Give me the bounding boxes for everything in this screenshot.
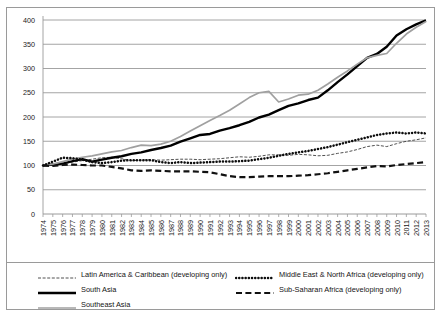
legend-item-label: Latin America & Caribbean (developing on… bbox=[81, 270, 227, 279]
x-axis-tick-label: 2009 bbox=[383, 220, 392, 236]
x-axis-tick-label: 1987 bbox=[167, 220, 176, 236]
legend-item[interactable]: Latin America & Caribbean (developing on… bbox=[37, 267, 227, 281]
x-axis-tick-label: 1980 bbox=[98, 220, 107, 236]
x-axis-tick-label: 2003 bbox=[324, 220, 333, 236]
x-axis-tick-label: 1983 bbox=[127, 220, 136, 236]
y-axis-tick-label: 0 bbox=[9, 210, 35, 219]
legend-swatch bbox=[37, 269, 77, 279]
y-axis-tick-label: 50 bbox=[9, 185, 35, 194]
x-axis-tick-label: 1986 bbox=[157, 220, 166, 236]
legend-column-left: Latin America & Caribbean (developing on… bbox=[37, 267, 227, 312]
legend-item[interactable]: Southeast Asia bbox=[37, 297, 227, 311]
plot-area: 050100150200250300350400 197419751976197… bbox=[7, 8, 436, 266]
x-axis-tick-label: 1974 bbox=[39, 220, 48, 236]
x-axis-tick-label: 2005 bbox=[343, 220, 352, 236]
legend-key-medium-solid-gray bbox=[37, 303, 77, 313]
x-axis-tick-label: 2010 bbox=[393, 220, 402, 236]
y-axis-tick-label: 300 bbox=[9, 64, 35, 73]
x-axis-tick-label: 1991 bbox=[206, 220, 215, 236]
y-axis-tick-label: 400 bbox=[9, 16, 35, 25]
x-axis-tick-label: 1995 bbox=[245, 220, 254, 236]
x-axis-tick-label: 1979 bbox=[88, 220, 97, 236]
x-axis-tick-label: 2013 bbox=[422, 220, 431, 236]
legend-swatch bbox=[37, 284, 77, 294]
y-axis-tick-label: 250 bbox=[9, 88, 35, 97]
x-axis-tick-label: 1988 bbox=[176, 220, 185, 236]
x-axis-tick-label: 2004 bbox=[334, 220, 343, 236]
x-axis-tick-label: 1998 bbox=[275, 220, 284, 236]
x-axis-tick-label: 1981 bbox=[108, 220, 117, 236]
x-axis-tick-label: 2012 bbox=[412, 220, 421, 236]
x-axis-tick-label: 1990 bbox=[196, 220, 205, 236]
legend-item[interactable]: South Asia bbox=[37, 282, 227, 296]
chart-frame: 050100150200250300350400 197419751976197… bbox=[6, 7, 435, 310]
series-line bbox=[43, 21, 426, 165]
x-axis-tick-label: 1989 bbox=[186, 220, 195, 236]
legend-swatch bbox=[235, 284, 275, 294]
legend-item-label: Sub-Saharan Africa (developing only) bbox=[279, 285, 401, 294]
series-line bbox=[43, 162, 426, 177]
x-axis-tick-label: 2011 bbox=[402, 220, 411, 235]
x-axis-tick-label: 1975 bbox=[49, 220, 58, 236]
x-axis-tick-label: 1976 bbox=[59, 220, 68, 236]
legend-swatch bbox=[37, 299, 77, 309]
gridlines bbox=[43, 20, 426, 214]
chart-page: 050100150200250300350400 197419751976197… bbox=[0, 0, 441, 315]
axis-lines bbox=[43, 16, 426, 217]
x-axis-tick-label: 1984 bbox=[137, 220, 146, 236]
legend-item[interactable]: Sub-Saharan Africa (developing only) bbox=[235, 282, 424, 296]
legend-item[interactable]: Middle East & North Africa (developing o… bbox=[235, 267, 424, 281]
x-axis-tick-label: 2007 bbox=[363, 220, 372, 236]
x-axis-tick-label: 1978 bbox=[78, 220, 87, 236]
x-axis-tick-label: 2002 bbox=[314, 220, 323, 236]
x-axis-tick-label: 2001 bbox=[304, 220, 313, 236]
x-axis-tick-label: 2008 bbox=[373, 220, 382, 236]
chart-legend: Latin America & Caribbean (developing on… bbox=[7, 262, 434, 309]
x-axis-tick-label: 1997 bbox=[265, 220, 274, 236]
x-axis-tick-label: 2000 bbox=[294, 220, 303, 236]
legend-key-thick-dotted bbox=[235, 273, 275, 283]
x-axis-tick-label: 1992 bbox=[216, 220, 225, 236]
legend-key-thick-dashed bbox=[235, 288, 275, 298]
x-axis-tick-label: 1999 bbox=[285, 220, 294, 236]
legend-swatch bbox=[235, 269, 275, 279]
x-axis-tick-label: 1994 bbox=[235, 220, 244, 236]
legend-column-right: Middle East & North Africa (developing o… bbox=[235, 267, 424, 297]
legend-key-thin-dashed bbox=[37, 273, 77, 283]
x-axis-tick-label: 1977 bbox=[68, 220, 77, 236]
legend-item-label: South Asia bbox=[81, 285, 116, 294]
x-axis-tick-label: 1993 bbox=[226, 220, 235, 236]
legend-item-label: Middle East & North Africa (developing o… bbox=[279, 270, 424, 279]
x-axis-tick-label: 1996 bbox=[255, 220, 264, 236]
legend-item-label: Southeast Asia bbox=[81, 300, 130, 309]
y-axis-tick-label: 150 bbox=[9, 137, 35, 146]
y-axis-tick-label: 350 bbox=[9, 40, 35, 49]
x-axis-tick-label: 1985 bbox=[147, 220, 156, 236]
y-axis-tick-label: 100 bbox=[9, 161, 35, 170]
x-axis-tick-label: 2006 bbox=[353, 220, 362, 236]
x-axis-tick-label: 1982 bbox=[118, 220, 127, 236]
y-axis-tick-label: 200 bbox=[9, 113, 35, 122]
legend-key-thick-solid bbox=[37, 288, 77, 298]
